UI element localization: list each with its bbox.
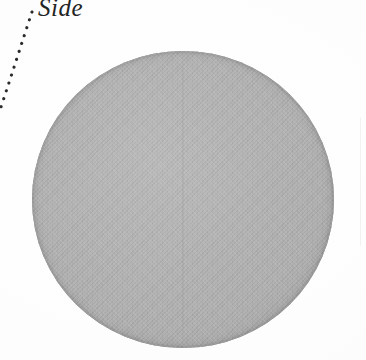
figure-canvas: Side [0, 0, 366, 360]
scan-artifact-rule [360, 118, 361, 246]
callout-label-side: Side [38, 0, 83, 21]
leader-dotted-path [0, 12, 32, 110]
side-disc [32, 51, 334, 348]
disc-body [32, 51, 334, 348]
